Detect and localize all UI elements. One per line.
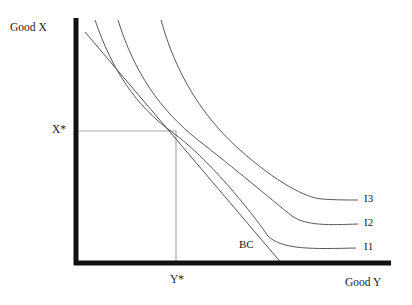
curve-label-i2: I2 [364, 217, 373, 228]
x-star-label: X* [52, 124, 66, 136]
indifference-curve-i1 [95, 20, 356, 249]
x-axis-title: Good Y [345, 277, 381, 289]
curve-label-i1: I1 [364, 241, 373, 252]
budget-constraint-line [85, 32, 283, 265]
plot-area [0, 0, 412, 305]
budget-constraint-label: BC [239, 239, 254, 250]
indifference-curve-i2 [118, 20, 358, 225]
y-axis-title: Good X [10, 22, 47, 34]
curve-label-i3: I3 [364, 193, 373, 204]
indifference-curve-i3 [161, 20, 358, 200]
y-star-label: Y* [170, 274, 184, 286]
indifference-curve-diagram: Good X Good Y X* Y* BC I3 I2 I1 [0, 0, 412, 305]
